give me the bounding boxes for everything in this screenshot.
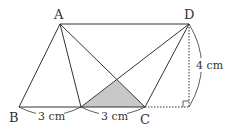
segment-DE	[81, 24, 189, 107]
geometry-diagram: A D B C 3 cm 3 cm 4 cm	[0, 0, 229, 131]
segment-DC	[145, 24, 189, 107]
right-angle-marker	[183, 101, 189, 107]
segment-AB	[19, 24, 60, 107]
label-A: A	[53, 7, 64, 22]
measure-EC: 3 cm	[101, 110, 129, 123]
label-C: C	[140, 112, 150, 127]
label-D: D	[184, 7, 194, 22]
shaded-triangle	[81, 80, 145, 107]
measure-DH: 4 cm	[196, 59, 224, 72]
measure-BE: 3 cm	[38, 110, 66, 123]
segment-AE	[60, 24, 81, 107]
label-B: B	[9, 110, 19, 125]
